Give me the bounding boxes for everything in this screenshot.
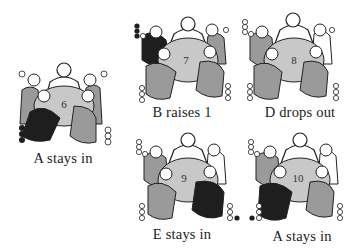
panel-caption: D drops out	[238, 104, 362, 121]
panel-pot-6: 6 A stays in	[0, 62, 124, 188]
svg-text:8: 8	[291, 54, 297, 66]
panel-pot-8: 8 D drops out	[240, 0, 364, 126]
svg-text:9: 9	[181, 172, 187, 184]
panel-pot-10: 10 A stays in	[240, 126, 364, 252]
svg-text:10: 10	[293, 172, 305, 184]
panel-pot-9: 9 E stays in	[130, 126, 254, 252]
panel-caption: B raises 1	[120, 104, 244, 121]
pot-label: 6	[61, 98, 67, 110]
panel-caption: A stays in	[0, 150, 128, 167]
panel-caption: A stays in	[240, 228, 364, 245]
poker-table-scene: 6	[0, 62, 124, 188]
svg-text:7: 7	[183, 54, 189, 66]
panel-caption: E stays in	[120, 226, 244, 243]
panel-pot-7: 7 B raises 1	[130, 0, 254, 126]
